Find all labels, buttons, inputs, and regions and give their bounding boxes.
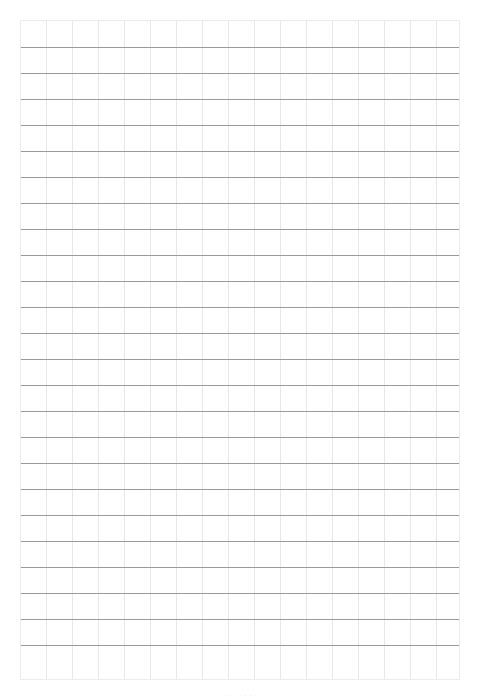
grid-vertical-line bbox=[124, 21, 125, 679]
grid-horizontal-line bbox=[21, 255, 459, 256]
grid-horizontal-line bbox=[21, 281, 459, 282]
grid-horizontal-line bbox=[21, 489, 459, 490]
grid-vertical-line bbox=[202, 21, 203, 679]
grid-horizontal-line bbox=[21, 567, 459, 568]
grid-vertical-line bbox=[410, 21, 411, 679]
grid-vertical-line bbox=[280, 21, 281, 679]
grid-horizontal-line bbox=[21, 411, 459, 412]
grid-horizontal-line bbox=[21, 229, 459, 230]
grid-vertical-line bbox=[436, 21, 437, 679]
page-footer: · · · · · · · · bbox=[0, 692, 477, 698]
grid-vertical-line bbox=[384, 21, 385, 679]
grid-vertical-line bbox=[46, 21, 47, 679]
grid-horizontal-line bbox=[21, 645, 459, 646]
grid-horizontal-line bbox=[21, 541, 459, 542]
grid-horizontal-line bbox=[21, 307, 459, 308]
grid-vertical-line bbox=[150, 21, 151, 679]
grid-vertical-line bbox=[98, 21, 99, 679]
grid-vertical-line bbox=[332, 21, 333, 679]
grid-horizontal-line bbox=[21, 385, 459, 386]
grid-horizontal-line bbox=[21, 463, 459, 464]
grid-paper bbox=[20, 20, 460, 680]
grid-horizontal-line bbox=[21, 73, 459, 74]
grid-horizontal-line bbox=[21, 151, 459, 152]
grid-horizontal-line bbox=[21, 125, 459, 126]
grid-horizontal-line bbox=[21, 437, 459, 438]
grid-horizontal-line bbox=[21, 203, 459, 204]
grid-vertical-line bbox=[72, 21, 73, 679]
grid-horizontal-line bbox=[21, 99, 459, 100]
grid-vertical-line bbox=[254, 21, 255, 679]
grid-vertical-line bbox=[306, 21, 307, 679]
grid-horizontal-line bbox=[21, 177, 459, 178]
grid-horizontal-line bbox=[21, 47, 459, 48]
grid-horizontal-line bbox=[21, 515, 459, 516]
grid-horizontal-line bbox=[21, 593, 459, 594]
grid-horizontal-line bbox=[21, 359, 459, 360]
grid-vertical-line bbox=[228, 21, 229, 679]
grid-vertical-line bbox=[176, 21, 177, 679]
grid-horizontal-line bbox=[21, 333, 459, 334]
grid-vertical-line bbox=[358, 21, 359, 679]
grid-horizontal-line bbox=[21, 619, 459, 620]
